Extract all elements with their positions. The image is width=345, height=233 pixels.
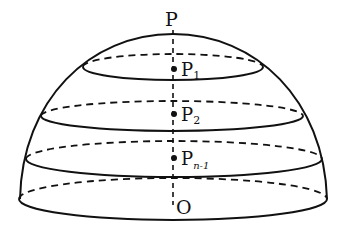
cross-section-2-front	[41, 116, 303, 131]
point-p2	[171, 111, 177, 117]
point-p1	[171, 66, 177, 72]
label-origin: O	[176, 196, 192, 218]
hemisphere-diagram: P P1 P2 Pn-1 O	[0, 0, 345, 233]
cross-section-n1-front	[26, 159, 322, 177]
point-pn1	[171, 155, 177, 161]
label-top-p: P	[165, 8, 178, 30]
label-p1: P1	[181, 59, 200, 82]
label-pn1: Pn-1	[181, 148, 209, 171]
label-p2: P2	[181, 104, 200, 127]
